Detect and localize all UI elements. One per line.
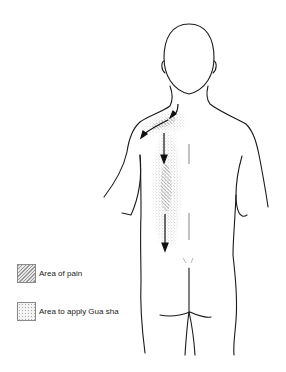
stippled-swatch-icon <box>17 302 36 321</box>
legend-label: Area to apply Gua sha <box>39 307 119 316</box>
hatched-swatch-icon <box>17 264 36 283</box>
legend-item-gua-sha: Area to apply Gua sha <box>17 302 119 321</box>
legend-label: Area of pain <box>39 269 82 278</box>
legend-item-pain: Area of pain <box>17 264 82 283</box>
